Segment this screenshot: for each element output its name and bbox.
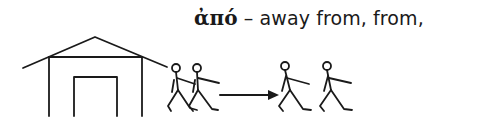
illustration bbox=[0, 0, 484, 128]
walker-icon bbox=[189, 64, 219, 111]
walker-icon bbox=[320, 62, 352, 111]
walker-icon bbox=[279, 62, 311, 111]
walker-icon bbox=[168, 64, 197, 111]
arrow-right-icon bbox=[220, 90, 279, 100]
house-icon bbox=[23, 37, 167, 116]
